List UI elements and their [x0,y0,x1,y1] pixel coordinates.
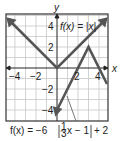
y-tick-neg2: −2 [42,84,54,95]
graph: −4 −2 2 4 4 2 −2 −4 x y f(x) = |x| f(x) … [0,0,121,141]
x-tick-neg2: −2 [30,71,42,82]
formula-suffix: + 2 [94,125,109,136]
x-axis-label: x [111,63,118,74]
abs-x-label: f(x) = |x| [60,21,96,32]
x-tick-2: 2 [74,71,80,82]
y-tick-2: 2 [48,42,54,53]
x-tick-4: 4 [95,71,101,82]
y-tick-4: 4 [48,21,54,32]
formula-mid: x − 1 [67,125,89,136]
x-tick-neg4: −4 [9,71,21,82]
formula-prefix: f(x) = −6 [10,125,48,136]
formula-label: f(x) = −6 1 3 x − 1 + 2 [10,121,109,139]
y-tick-neg4: −4 [42,105,54,116]
y-axis-label: y [53,2,60,13]
